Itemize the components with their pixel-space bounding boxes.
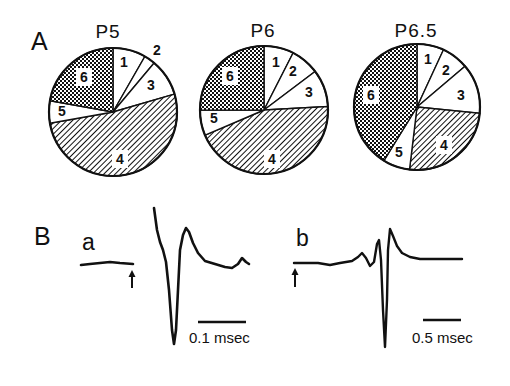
trace-label-a: a [82, 229, 95, 255]
pie-segment-label: 1 [424, 51, 432, 67]
scale-label-a: 0.1 msec [189, 329, 250, 346]
pie-segment-label: 4 [440, 137, 448, 153]
pie-segment-label: 2 [442, 62, 450, 78]
pie-segment-label: 2 [153, 42, 161, 58]
pie-segment-label: 6 [367, 87, 375, 103]
pie-chart-p5: 123456 [49, 42, 177, 176]
pie-segment-label: 2 [289, 63, 297, 79]
pie-segment-label: 3 [457, 87, 465, 103]
pie-segment-label: 1 [272, 54, 280, 70]
trace-label-b: b [296, 225, 309, 251]
pie-segment-label: 5 [210, 110, 218, 126]
trace-panel-b: b 0.5 msec [292, 225, 474, 347]
pie-segment-label: 5 [395, 144, 403, 160]
trace-panel-a: a 0.1 msec [81, 208, 250, 346]
pie-segment-label: 6 [226, 68, 234, 84]
scale-label-b: 0.5 msec [412, 329, 473, 346]
pie-segment-label: 3 [147, 77, 155, 93]
pie-segment-label: 4 [116, 151, 124, 167]
figure: A B 123456 123456 123456 P5 P6 P6.5 a 0.… [0, 0, 510, 386]
pie-segment-label: 5 [58, 103, 66, 119]
pie-chart-p6: 123456 [200, 46, 328, 174]
pie-segment-label: 3 [305, 84, 313, 100]
stimulus-arrow-icon-b [292, 268, 299, 287]
stimulus-arrow-icon-a [129, 270, 136, 288]
pie-segment-label: 6 [80, 69, 88, 85]
pie-title-p5: P5 [95, 21, 120, 42]
panel-label-a: A [31, 27, 48, 55]
waveform-trace-a [81, 208, 249, 344]
pie-chart-p6-5: 123456 [354, 44, 480, 170]
panel-label-b: B [34, 222, 51, 250]
pie-segment-label: 4 [268, 151, 276, 167]
pie-segment-label: 1 [120, 54, 128, 70]
pie-title-p6-5: P6.5 [394, 20, 437, 41]
pie-title-p6: P6 [250, 20, 275, 41]
